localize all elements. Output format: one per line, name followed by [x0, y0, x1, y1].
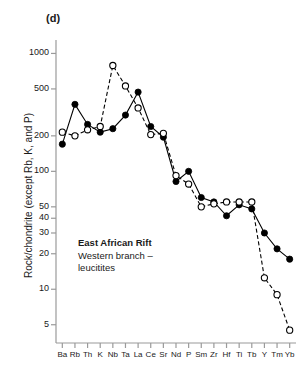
data-point — [122, 83, 128, 89]
y-tick-label: 50 — [15, 201, 49, 211]
data-point — [110, 126, 116, 132]
axes — [56, 40, 296, 343]
data-point — [211, 201, 217, 207]
annotation-line-1: Western branch – — [78, 250, 153, 262]
data-point — [249, 206, 255, 212]
data-point — [249, 199, 255, 205]
data-point — [97, 123, 103, 129]
y-tick-label: 1000 — [15, 47, 49, 57]
y-tick-label: 200 — [15, 130, 49, 140]
data-point — [160, 130, 166, 136]
data-point — [148, 123, 154, 129]
x-tick-marks — [62, 343, 289, 348]
data-point — [84, 127, 90, 133]
data-point — [135, 105, 141, 111]
data-point — [261, 275, 267, 281]
data-point — [59, 141, 65, 147]
data-point — [287, 256, 293, 262]
y-tick-label: 100 — [15, 165, 49, 175]
data-point — [72, 133, 78, 139]
data-point — [198, 194, 204, 200]
x-tick-label: Yb — [279, 350, 301, 359]
data-point — [186, 181, 192, 187]
panel-label: (d) — [46, 12, 60, 24]
y-tick-label: 500 — [15, 83, 49, 93]
series-markers — [59, 62, 293, 333]
series-lines — [62, 66, 289, 331]
y-tick-label: 10 — [15, 283, 49, 293]
data-point — [173, 173, 179, 179]
annotation-title: East African Rift — [78, 237, 152, 249]
data-point — [261, 230, 267, 236]
data-point — [135, 89, 141, 95]
data-point — [186, 168, 192, 174]
data-point — [110, 62, 116, 68]
y-tick-label: 40 — [15, 212, 49, 222]
data-point — [72, 101, 78, 107]
y-tick-marks — [51, 53, 56, 324]
data-point — [173, 178, 179, 184]
spider-diagram-figure: (d) Rock/chondrite (except Rb, K, and P)… — [0, 0, 304, 384]
data-point — [148, 131, 154, 137]
data-point — [122, 112, 128, 118]
data-point — [274, 246, 280, 252]
data-point — [287, 327, 293, 333]
series-line-open-circles — [62, 66, 289, 331]
data-point — [274, 292, 280, 298]
data-point — [198, 204, 204, 210]
y-tick-label: 20 — [15, 248, 49, 258]
y-tick-label: 30 — [15, 227, 49, 237]
data-point — [59, 129, 65, 135]
data-point — [223, 199, 229, 205]
data-point — [236, 199, 242, 205]
data-point — [223, 213, 229, 219]
y-tick-label: 5 — [15, 319, 49, 329]
annotation-line-2: leucitites — [78, 262, 115, 274]
